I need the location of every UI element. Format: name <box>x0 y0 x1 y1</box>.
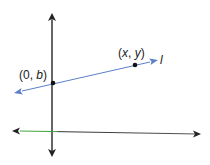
line-l-right-arrow-icon <box>149 59 158 66</box>
point-y-intercept <box>51 81 56 86</box>
x-axis-line <box>20 131 198 134</box>
coordinate-plane-diagram: (0, b) (x, y) l <box>0 0 210 165</box>
point-x-y <box>133 63 138 68</box>
label-line-l: l <box>160 53 163 67</box>
x-axis <box>12 128 201 138</box>
x-axis-left-arrow-icon <box>12 128 20 135</box>
line-l-left-arrow-icon <box>14 88 23 95</box>
label-point-x-y: (x, y) <box>118 46 145 60</box>
label-y-intercept: (0, b) <box>19 68 47 82</box>
